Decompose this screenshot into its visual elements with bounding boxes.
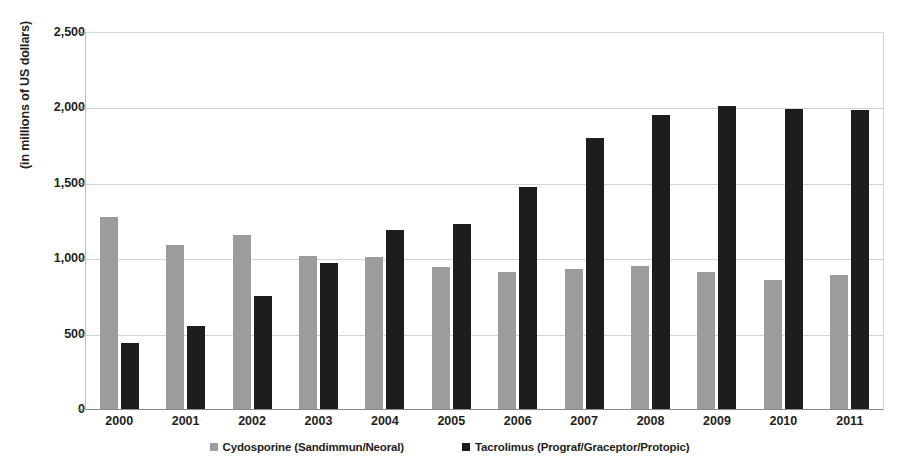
bar-tacrolimus-2005 bbox=[453, 224, 471, 409]
bar-cydosporine-2009 bbox=[697, 272, 715, 409]
y-tick-mark bbox=[78, 334, 84, 335]
bar-cydosporine-2010 bbox=[764, 280, 782, 409]
bar-group bbox=[352, 32, 418, 409]
bar-tacrolimus-2011 bbox=[851, 110, 869, 409]
y-axis-ticks: 2,5002,0001,5001,0005000 bbox=[25, 32, 85, 410]
x-tick-label-2006: 2006 bbox=[504, 414, 532, 428]
x-tick-label-2004: 2004 bbox=[371, 414, 399, 428]
bar-cydosporine-2000 bbox=[100, 217, 118, 409]
bar-chart: (in millions of US dollars) 2,5002,0001,… bbox=[0, 0, 899, 473]
bar-cydosporine-2002 bbox=[233, 235, 251, 409]
x-tick-label-2001: 2001 bbox=[172, 414, 200, 428]
bar-tacrolimus-2004 bbox=[386, 230, 404, 409]
bar-tacrolimus-2006 bbox=[519, 187, 537, 409]
bar-group bbox=[285, 32, 351, 409]
bar-cydosporine-2008 bbox=[631, 266, 649, 409]
x-tick-label-2000: 2000 bbox=[105, 414, 133, 428]
legend-item-tacrolimus[interactable]: Tacrolimus (Prograf/Graceptor/Protopic) bbox=[462, 441, 689, 453]
bar-cydosporine-2004 bbox=[365, 257, 383, 409]
bar-group bbox=[219, 32, 285, 409]
bar-cydosporine-2011 bbox=[830, 275, 848, 409]
y-tick-mark bbox=[78, 107, 84, 108]
legend-label: Cydosporine (Sandimmun/Neoral) bbox=[223, 441, 404, 453]
bar-group bbox=[617, 32, 683, 409]
x-tick-label-2009: 2009 bbox=[703, 414, 731, 428]
bar-tacrolimus-2003 bbox=[320, 263, 338, 409]
legend-swatch-icon bbox=[462, 443, 470, 451]
legend-item-cydosporine[interactable]: Cydosporine (Sandimmun/Neoral) bbox=[210, 441, 404, 453]
x-axis-labels: 2000200120022003200420052006200720082009… bbox=[86, 414, 883, 434]
bar-group bbox=[684, 32, 750, 409]
legend-swatch-icon bbox=[210, 443, 218, 451]
bar-group bbox=[418, 32, 484, 409]
bar-cydosporine-2003 bbox=[299, 256, 317, 409]
bar-tacrolimus-2000 bbox=[121, 343, 139, 409]
bars-layer bbox=[86, 32, 883, 409]
x-tick-label-2011: 2011 bbox=[836, 414, 863, 428]
bar-tacrolimus-2002 bbox=[254, 296, 272, 409]
bar-group bbox=[551, 32, 617, 409]
y-tick-mark bbox=[78, 32, 84, 33]
bar-tacrolimus-2010 bbox=[785, 109, 803, 409]
bar-group bbox=[485, 32, 551, 409]
x-tick-label-2002: 2002 bbox=[238, 414, 266, 428]
bar-cydosporine-2005 bbox=[432, 267, 450, 410]
y-tick-mark bbox=[78, 409, 84, 410]
x-tick-label-2008: 2008 bbox=[637, 414, 665, 428]
bar-tacrolimus-2007 bbox=[586, 138, 604, 409]
legend-label: Tacrolimus (Prograf/Graceptor/Protopic) bbox=[475, 441, 689, 453]
x-tick-label-2007: 2007 bbox=[570, 414, 598, 428]
y-tick-mark bbox=[78, 183, 84, 184]
bar-tacrolimus-2001 bbox=[187, 326, 205, 409]
x-tick-label-2005: 2005 bbox=[437, 414, 465, 428]
x-tick-label-2003: 2003 bbox=[305, 414, 333, 428]
bar-tacrolimus-2008 bbox=[652, 115, 670, 409]
bar-group bbox=[86, 32, 152, 409]
bar-group bbox=[750, 32, 816, 409]
bar-cydosporine-2007 bbox=[565, 269, 583, 409]
bar-cydosporine-2006 bbox=[498, 272, 516, 409]
x-tick-label-2010: 2010 bbox=[769, 414, 797, 428]
chart-legend: Cydosporine (Sandimmun/Neoral)Tacrolimus… bbox=[0, 441, 899, 453]
bar-group bbox=[152, 32, 218, 409]
bar-tacrolimus-2009 bbox=[718, 106, 736, 409]
y-tick-mark bbox=[78, 258, 84, 259]
bar-cydosporine-2001 bbox=[166, 245, 184, 409]
bar-group bbox=[817, 32, 883, 409]
